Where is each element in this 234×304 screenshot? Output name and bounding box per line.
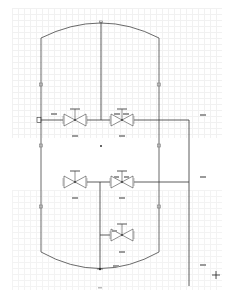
valve-flanges: [63, 116, 134, 239]
center-marker: [100, 145, 102, 147]
valve-v3[interactable]: [64, 171, 86, 188]
piping: [41, 22, 189, 286]
valve-v4[interactable]: [111, 171, 133, 188]
page-label: 1 / 1: [98, 289, 105, 293]
valve-v1[interactable]: [64, 109, 86, 126]
left-inlet: [37, 118, 41, 123]
diagram-canvas: 1 / 1: [0, 0, 234, 304]
valve-v5[interactable]: [111, 224, 133, 241]
crosshair-cursor[interactable]: [212, 271, 220, 279]
label-blocks: [51, 113, 206, 289]
wall-nozzles: [40, 21, 161, 208]
pid-diagram: 1 / 1: [0, 0, 234, 304]
valve-v2[interactable]: [111, 109, 133, 126]
